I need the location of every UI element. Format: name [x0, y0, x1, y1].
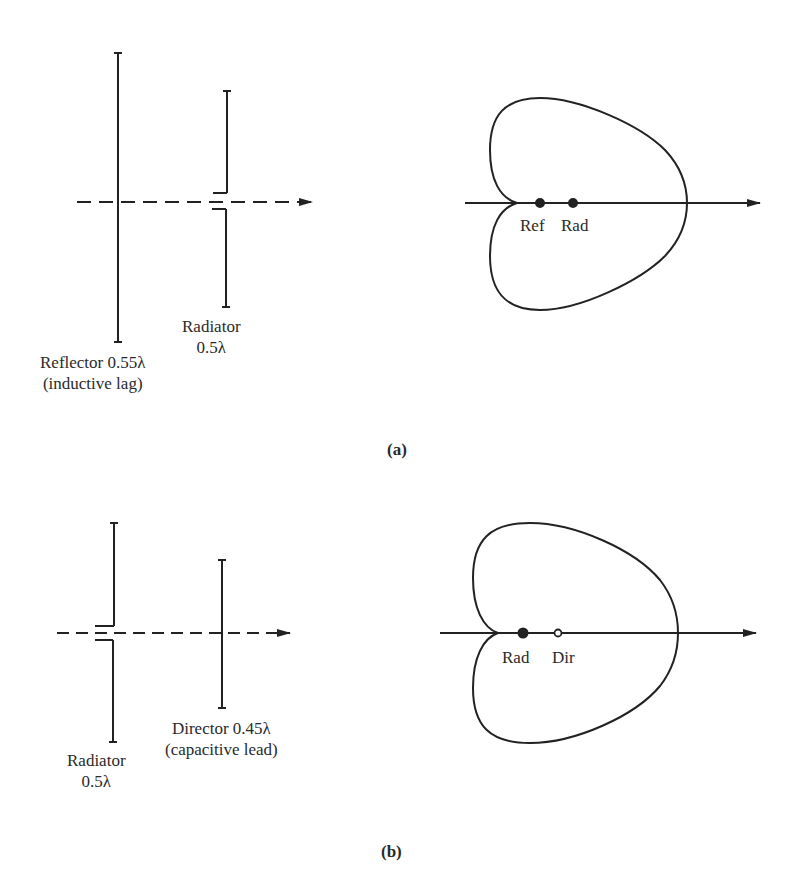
pattern-label-rad: Rad [502, 647, 529, 668]
rad-dot [519, 629, 528, 638]
pattern-label-dir: Dir [552, 647, 575, 668]
director-label-line2: (capacitive lead) [165, 739, 278, 760]
radiator-label-line2: 0.5λ [182, 337, 241, 358]
caption-b: (b) [381, 842, 402, 862]
caption-a: (a) [387, 440, 407, 460]
radiator-label-line1: Radiator [67, 750, 126, 771]
pattern-label-rad: Rad [561, 215, 588, 236]
radiator-label-line2: 0.5λ [67, 771, 126, 792]
radiator-label: Radiator 0.5λ [182, 316, 241, 358]
part-a-pattern [465, 98, 760, 310]
part-b-pattern [440, 523, 756, 743]
part-a-elements [77, 53, 312, 342]
ref-dot [536, 199, 544, 207]
part-b-elements [57, 523, 290, 742]
radiator-label-line1: Radiator [182, 316, 241, 337]
antenna-diagram [0, 0, 803, 873]
radiator-label: Radiator 0.5λ [67, 750, 126, 792]
director-label: Director 0.45λ (capacitive lead) [165, 718, 278, 760]
reflector-label-line1: Reflector 0.55λ [40, 352, 146, 373]
rad-dot [569, 199, 577, 207]
pattern-label-ref: Ref [520, 215, 545, 236]
reflector-label-line2: (inductive lag) [40, 373, 146, 394]
director-label-line1: Director 0.45λ [165, 718, 278, 739]
reflector-label: Reflector 0.55λ (inductive lag) [40, 352, 146, 394]
dir-dot-hollow [555, 630, 562, 637]
